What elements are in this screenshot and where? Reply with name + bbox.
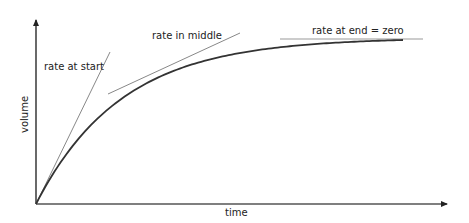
tangent-line-middle xyxy=(108,33,240,94)
x-axis-label: time xyxy=(225,207,248,218)
label-rate-at-start: rate at start xyxy=(44,61,104,72)
y-axis-label: volume xyxy=(19,96,30,133)
label-rate-in-middle: rate in middle xyxy=(152,30,222,41)
label-rate-at-end: rate at end = zero xyxy=(312,25,404,36)
rate-diagram: rate at start rate in middle rate at end… xyxy=(0,0,469,223)
tangent-line-start xyxy=(36,52,110,204)
